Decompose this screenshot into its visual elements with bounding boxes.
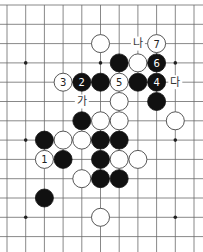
white-stone	[73, 170, 91, 188]
star-point	[24, 138, 28, 142]
white-stone-icon	[92, 208, 110, 226]
white-stone	[110, 93, 128, 111]
white-stone-icon	[166, 112, 184, 130]
black-stone	[92, 150, 110, 168]
white-stone-icon	[110, 112, 128, 130]
white-stone-icon	[73, 170, 91, 188]
white-stone-icon	[54, 131, 72, 149]
move-number: 1	[41, 154, 47, 165]
white-stone-icon	[110, 150, 128, 168]
position-labels: 가나다	[75, 37, 183, 109]
white-stone	[110, 112, 128, 130]
black-stone	[92, 131, 110, 149]
black-stone-icon	[148, 93, 166, 111]
star-point	[24, 216, 28, 220]
black-stone-icon	[110, 170, 128, 188]
label-text: 가	[77, 95, 87, 108]
black-stone	[35, 131, 53, 149]
white-stone-icon	[129, 54, 147, 72]
move-number: 6	[153, 58, 159, 69]
white-stone	[92, 35, 110, 53]
black-stone	[73, 112, 91, 130]
black-stone	[110, 131, 128, 149]
black-stone	[110, 170, 128, 188]
white-stone-icon	[110, 93, 128, 111]
black-stone	[35, 189, 53, 207]
star-point	[174, 216, 178, 220]
black-stone-icon	[92, 131, 110, 149]
star-point	[174, 138, 178, 142]
black-stone-icon	[129, 73, 147, 91]
black-stone	[129, 73, 147, 91]
black-stone-icon	[73, 112, 91, 130]
move-number: 3	[60, 77, 66, 88]
move-number: 7	[153, 39, 159, 50]
position-label: 다	[168, 75, 182, 89]
black-stone	[92, 73, 110, 91]
white-stone: 5	[110, 73, 128, 91]
move-number: 5	[116, 77, 122, 88]
black-stone-icon	[54, 150, 72, 168]
black-stone-icon	[110, 131, 128, 149]
white-stone: 3	[54, 73, 72, 91]
stones-layer: 7632541	[35, 35, 184, 227]
white-stone	[129, 150, 147, 168]
label-text: 다	[170, 76, 180, 89]
white-stone-icon	[73, 131, 91, 149]
move-number: 4	[153, 77, 159, 88]
white-stone	[110, 150, 128, 168]
star-point	[174, 61, 178, 65]
position-label: 가	[75, 95, 89, 109]
white-stone	[73, 131, 91, 149]
black-stone	[92, 170, 110, 188]
black-stone-icon	[35, 131, 53, 149]
black-stone-icon	[92, 73, 110, 91]
move-number: 2	[79, 77, 85, 88]
black-stone	[54, 150, 72, 168]
black-stone-icon	[110, 54, 128, 72]
white-stone	[92, 208, 110, 226]
white-stone	[129, 54, 147, 72]
white-stone	[166, 112, 184, 130]
black-stone-icon	[92, 150, 110, 168]
black-stone-icon	[92, 170, 110, 188]
label-text: 나	[133, 37, 143, 50]
white-stone-icon	[129, 150, 147, 168]
white-stone	[54, 131, 72, 149]
position-label: 나	[131, 37, 145, 51]
star-point	[99, 61, 103, 65]
white-stone-icon	[92, 35, 110, 53]
black-stone-icon	[35, 189, 53, 207]
go-board-diagram: 7632541 가나다	[0, 0, 203, 252]
star-point	[24, 61, 28, 65]
black-stone	[110, 54, 128, 72]
white-stone: 7	[148, 35, 166, 53]
black-stone: 2	[73, 73, 91, 91]
white-stone	[92, 112, 110, 130]
black-stone	[148, 93, 166, 111]
white-stone: 1	[35, 150, 53, 168]
white-stone-icon	[92, 112, 110, 130]
black-stone: 4	[148, 73, 166, 91]
black-stone: 6	[148, 54, 166, 72]
